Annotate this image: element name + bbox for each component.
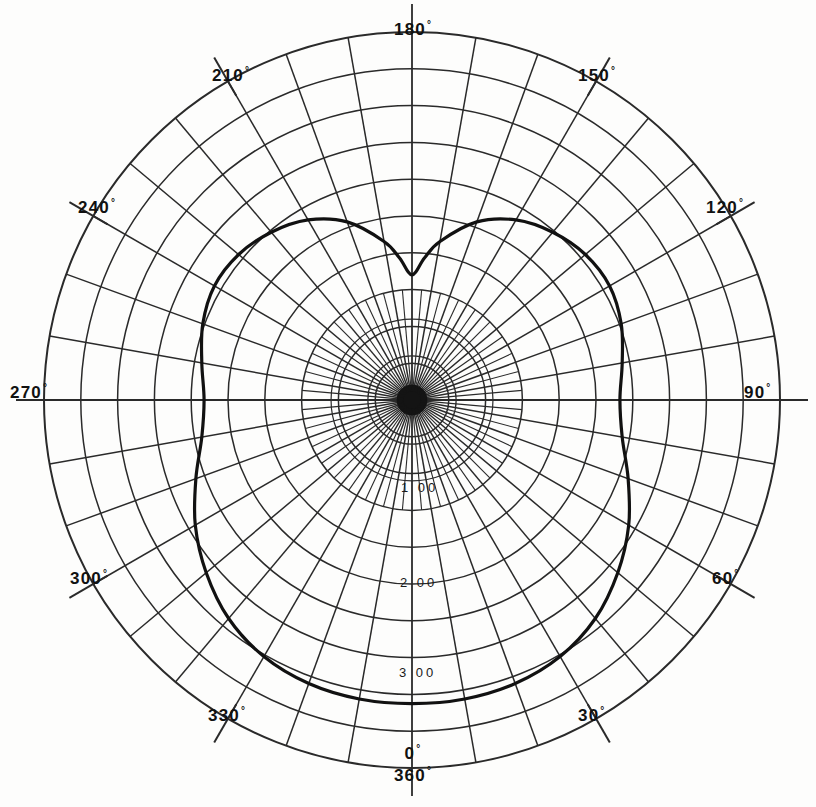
polar-chart: 180° 90° 270° 0° 360° 210° 150° 240° 120…: [0, 0, 816, 807]
angle-label-0-360-stack: 0° 360°: [373, 744, 453, 779]
angle-label-240: 240°: [78, 198, 116, 216]
angle-label-120: 120°: [706, 198, 744, 216]
angle-label-330: 330°: [208, 706, 246, 724]
angle-label-180: 180°: [394, 20, 432, 38]
origin-marker: [397, 385, 428, 416]
angle-label-150: 150°: [578, 66, 616, 84]
radial-label-2: 2 00: [400, 576, 437, 589]
angle-label-360: 360°: [373, 766, 453, 784]
polar-plot-canvas: [0, 0, 816, 807]
radial-label-3: 3 00: [399, 666, 436, 679]
angle-label-210: 210°: [212, 66, 250, 84]
angle-label-270: 270°: [10, 383, 48, 401]
angle-label-60: 60°: [712, 569, 740, 587]
angle-label-30: 30°: [578, 706, 606, 724]
angle-label-0: 0°: [373, 744, 453, 762]
radial-label-1: 1 00: [401, 481, 438, 494]
angle-label-300: 300°: [70, 569, 108, 587]
angle-label-90: 90°: [744, 383, 772, 401]
